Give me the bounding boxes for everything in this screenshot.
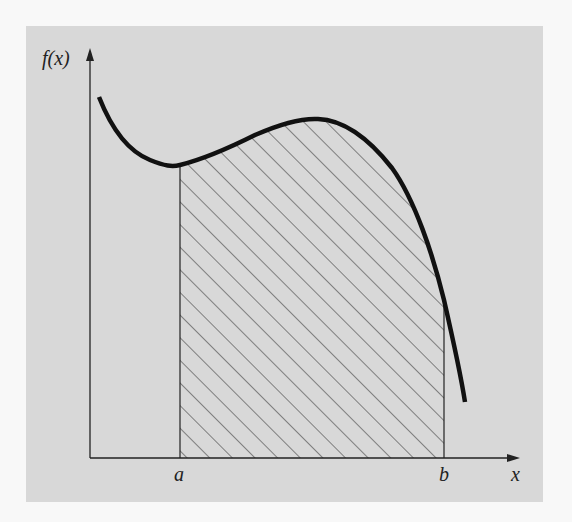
y-axis-label: f(x) — [42, 48, 70, 68]
y-axis — [86, 48, 94, 458]
x-axis-arrow-icon — [507, 454, 520, 462]
x-axis-label: x — [511, 464, 520, 484]
y-axis-arrow-icon — [86, 48, 94, 61]
upper-bound-label: b — [439, 464, 449, 484]
lower-bound-label: a — [174, 464, 184, 484]
integral-diagram — [0, 0, 572, 522]
